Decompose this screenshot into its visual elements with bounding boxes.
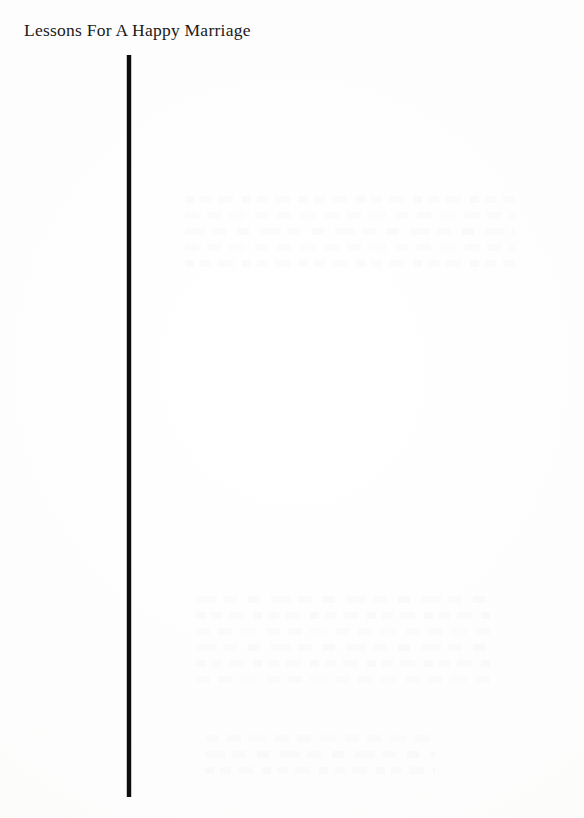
show-through-line (185, 212, 515, 219)
show-through-block-lower (196, 596, 496, 716)
running-head: Lessons For A Happy Marriage (24, 19, 251, 41)
show-through-line (196, 628, 496, 635)
show-through-line (205, 751, 435, 758)
show-through-block-foot (205, 735, 435, 780)
show-through-line (185, 244, 515, 251)
book-page: Lessons For A Happy Marriage (0, 0, 584, 818)
paper-texture (0, 0, 584, 818)
show-through-block-upper (185, 196, 515, 291)
vertical-rule (127, 55, 131, 797)
show-through-line (196, 612, 496, 619)
show-through-line (196, 644, 496, 651)
show-through-line (185, 228, 515, 235)
show-through-line (185, 196, 515, 203)
show-through-line (196, 660, 496, 667)
show-through-line (205, 767, 435, 774)
show-through-line (196, 676, 496, 683)
show-through-line (185, 260, 515, 267)
show-through-line (205, 735, 435, 742)
show-through-line (196, 596, 496, 603)
